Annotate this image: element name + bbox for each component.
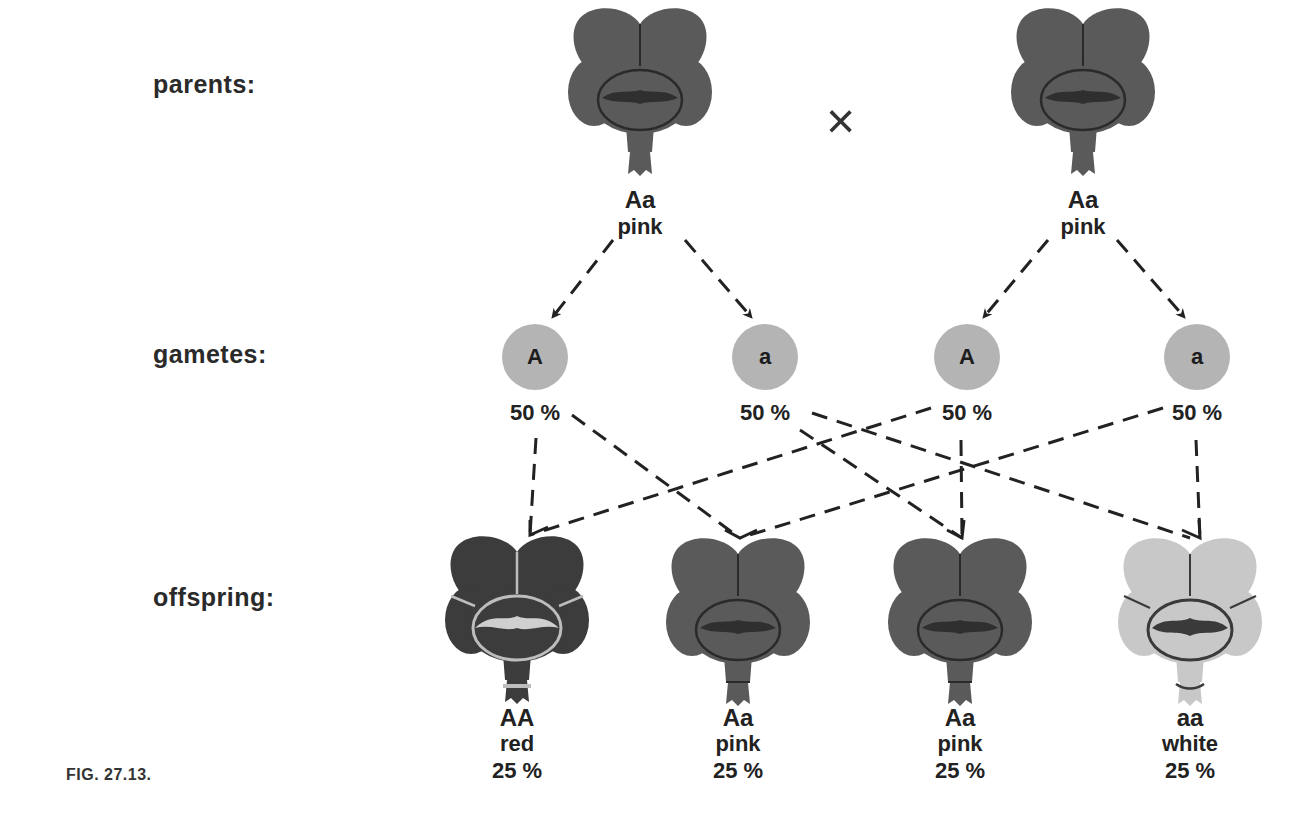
offspring-3-genotype: Aa <box>900 704 1020 732</box>
gamete-2-percent: 50 % <box>705 400 825 426</box>
parent-flower-2 <box>1003 2 1163 182</box>
gamete-2: a <box>732 324 798 390</box>
offspring-2-phenotype: pink <box>678 731 798 757</box>
offspring-1-percent: 25 % <box>457 758 577 784</box>
arrow-parent1-to-A <box>552 240 613 318</box>
offspring-flower-1 <box>437 530 597 710</box>
offspring-flower-3 <box>880 532 1040 712</box>
line-a1-to-Aa2 <box>800 430 962 538</box>
offspring-3-percent: 25 % <box>900 758 1020 784</box>
gamete-3: A <box>934 324 1000 390</box>
line-A2-to-AA <box>530 408 931 535</box>
arrow-parent2-to-A <box>983 240 1048 318</box>
offspring-3-phenotype: pink <box>900 731 1020 757</box>
parent-2-genotype: Aa <box>1023 186 1143 214</box>
gamete-3-allele: A <box>959 344 975 370</box>
parent-2-phenotype: pink <box>1023 214 1143 240</box>
flower-icon <box>1003 2 1163 182</box>
offspring-2-genotype: Aa <box>678 704 798 732</box>
parent-flower-1 <box>560 2 720 182</box>
flower-icon <box>658 532 818 712</box>
flower-icon <box>437 530 597 710</box>
flower-icon <box>560 2 720 182</box>
arrow-parent1-to-a <box>685 240 752 318</box>
gamete-3-percent: 50 % <box>907 400 1027 426</box>
offspring-4-genotype: aa <box>1130 704 1250 732</box>
offspring-1-genotype: AA <box>457 704 577 732</box>
offspring-flower-4 <box>1110 532 1270 712</box>
offspring-4-percent: 25 % <box>1130 758 1250 784</box>
offspring-4-phenotype: white <box>1130 731 1250 757</box>
offspring-flower-2 <box>658 532 818 712</box>
line-A2-to-Aa2 <box>961 440 962 538</box>
gamete-2-allele: a <box>759 344 771 370</box>
arrow-parent2-to-a <box>1117 240 1185 318</box>
gamete-1-allele: A <box>527 344 543 370</box>
offspring-2-percent: 25 % <box>678 758 798 784</box>
gamete-4: a <box>1164 324 1230 390</box>
offspring-1-phenotype: red <box>457 731 577 757</box>
cross-symbol: × <box>826 96 855 146</box>
gamete-1-percent: 50 % <box>475 400 595 426</box>
gamete-4-allele: a <box>1191 344 1203 370</box>
line-A1-to-Aa1 <box>572 415 740 538</box>
flower-icon <box>880 532 1040 712</box>
line-a2-to-Aa1 <box>740 408 1163 538</box>
parent-1-phenotype: pink <box>580 214 700 240</box>
parent-1-genotype: Aa <box>580 186 700 214</box>
gamete-1: A <box>502 324 568 390</box>
gamete-4-percent: 50 % <box>1137 400 1257 426</box>
flower-icon <box>1110 532 1270 712</box>
